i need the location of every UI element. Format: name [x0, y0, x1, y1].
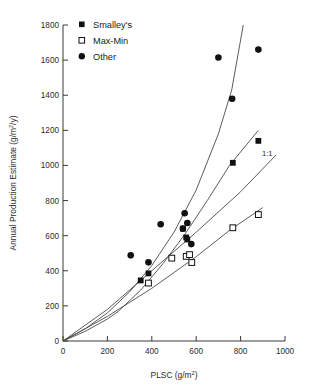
y-axis-title: Annual Production Estimate (g/m2/y) — [8, 115, 18, 250]
data-point-smalleys — [138, 278, 144, 284]
data-point-max-min — [255, 212, 261, 218]
data-point-smalleys — [255, 138, 261, 144]
data-point-max-min — [230, 225, 236, 231]
x-tick-label: 400 — [145, 347, 159, 356]
data-point-max-min — [187, 252, 193, 258]
x-axis-title: PLSC (g/m2) — [151, 370, 198, 380]
x-tick-label: 600 — [189, 347, 203, 356]
data-point-max-min — [169, 255, 175, 261]
y-tick-label: 200 — [45, 302, 59, 311]
data-point-other — [184, 220, 191, 227]
legend-marker-open-square — [79, 38, 85, 44]
x-tick-label: 800 — [234, 347, 248, 356]
data-point-smalleys — [146, 271, 152, 277]
legend-label-max-min: Max-Min — [93, 36, 128, 46]
data-point-smalleys — [184, 237, 190, 243]
legend-marker-filled-square — [79, 22, 85, 28]
y-tick-label: 1600 — [41, 56, 60, 65]
data-point-other — [145, 259, 152, 266]
data-point-other — [229, 95, 236, 102]
legend-label-other: Other — [93, 52, 116, 62]
y-tick-label: 1200 — [41, 126, 60, 135]
x-tick-label: 0 — [61, 347, 66, 356]
x-tick-label: 1000 — [276, 347, 295, 356]
x-tick-label: 200 — [101, 347, 115, 356]
data-point-other — [215, 54, 222, 61]
chart-figure: 020040060080010001200140016001800 020040… — [0, 0, 309, 391]
data-point-smalleys — [180, 226, 186, 232]
data-point-other — [157, 221, 164, 228]
y-tick-label: 800 — [45, 197, 59, 206]
data-point-other — [181, 210, 188, 217]
y-tick-label: 1800 — [41, 21, 60, 30]
data-point-max-min — [146, 280, 152, 286]
data-point-other — [255, 46, 262, 53]
legend-marker-filled-circle — [79, 53, 85, 59]
one-to-one-annotation: 1:1 — [262, 149, 273, 158]
y-tick-label: 1000 — [41, 161, 60, 170]
y-tick-label: 400 — [45, 267, 59, 276]
y-tick-label: 600 — [45, 232, 59, 241]
legend-label-smalleys: Smalley's — [93, 20, 132, 30]
y-tick-label: 0 — [54, 337, 59, 346]
scatter-plot-svg: 020040060080010001200140016001800 020040… — [0, 0, 309, 391]
y-tick-label: 1400 — [41, 91, 60, 100]
data-point-max-min — [189, 260, 195, 266]
data-point-smalleys — [230, 160, 236, 166]
data-point-other — [127, 252, 134, 259]
